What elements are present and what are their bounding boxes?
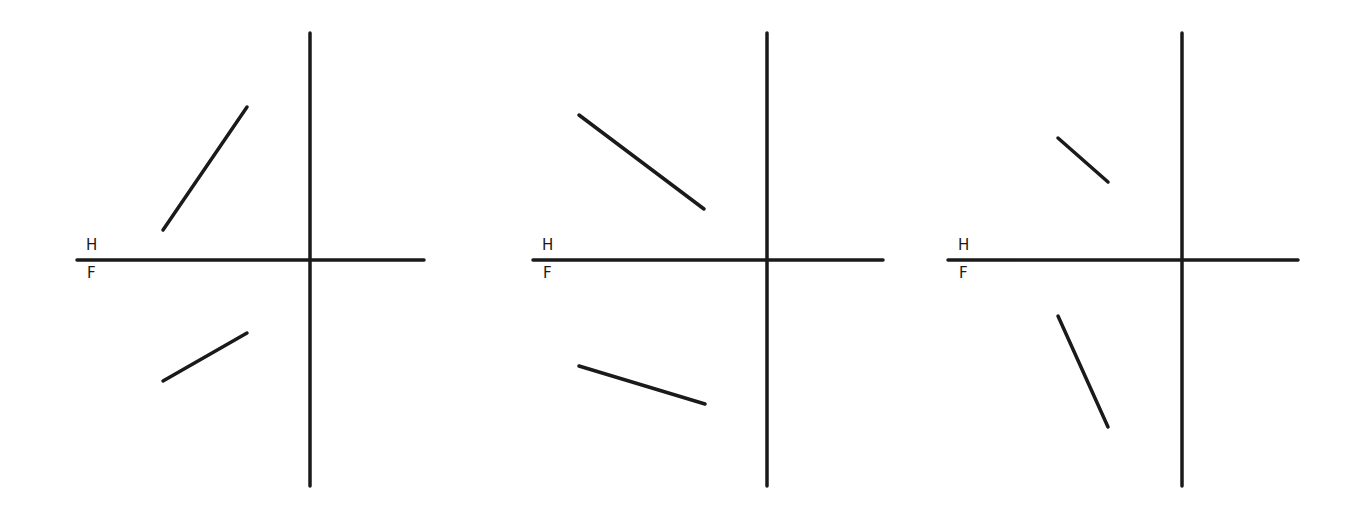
top-view-line (1058, 138, 1108, 182)
panel-1-f-label: F (87, 266, 96, 281)
top-view-line (579, 115, 704, 209)
panel-2-h-label: H (542, 238, 553, 253)
panel-3 (948, 33, 1298, 486)
panel-1 (77, 33, 424, 486)
panel-2-f-label: F (543, 266, 552, 281)
panel-2 (533, 33, 883, 486)
front-view-line (1058, 316, 1108, 427)
front-view-line (579, 366, 705, 404)
front-view-line (163, 333, 247, 381)
top-view-line (163, 107, 247, 230)
diagram-canvas (0, 0, 1367, 512)
panel-3-f-label: F (959, 266, 968, 281)
panel-1-h-label: H (86, 238, 97, 253)
panel-3-h-label: H (958, 238, 969, 253)
